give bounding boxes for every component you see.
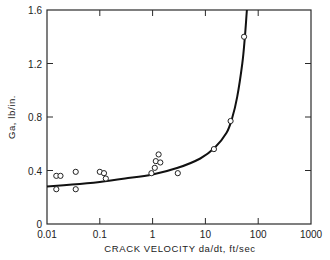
data-point-marker — [158, 160, 163, 165]
data-point-marker — [211, 147, 216, 152]
y-tick-label: 0 — [36, 219, 42, 230]
data-point-marker — [228, 118, 233, 123]
plot-frame — [47, 10, 311, 224]
y-tick-label: 0.8 — [28, 112, 42, 123]
chart: 0.010.11101001000 00.40.81.21.6 CRACK VE… — [0, 0, 330, 260]
y-axis-tick-labels: 00.40.81.21.6 — [28, 5, 42, 230]
data-point-marker — [156, 152, 161, 157]
data-point-marker — [73, 187, 78, 192]
data-point-marker — [101, 171, 106, 176]
data-markers — [54, 34, 247, 192]
data-point-marker — [175, 171, 180, 176]
y-axis-ticks — [47, 64, 311, 171]
y-tick-label: 1.6 — [28, 5, 42, 16]
fit-curve — [47, 10, 247, 187]
data-point-marker — [152, 165, 157, 170]
x-tick-label: 1 — [150, 229, 156, 240]
x-tick-label: 10 — [200, 229, 212, 240]
data-point-marker — [149, 171, 154, 176]
data-point-marker — [58, 173, 63, 178]
x-tick-label: 100 — [250, 229, 267, 240]
y-axis-title: Ga, lb/in. — [6, 95, 17, 139]
data-point-marker — [103, 176, 108, 181]
x-tick-label: 0.1 — [93, 229, 107, 240]
data-point-marker — [54, 187, 59, 192]
x-axis-title: CRACK VELOCITY da/dt, ft/sec — [104, 243, 255, 254]
x-axis-ticks — [100, 10, 258, 224]
y-tick-label: 0.4 — [28, 166, 42, 177]
x-tick-label: 0.01 — [37, 229, 57, 240]
y-tick-label: 1.2 — [28, 59, 42, 70]
data-point-marker — [73, 169, 78, 174]
data-point-marker — [241, 34, 246, 39]
x-tick-label: 1000 — [300, 229, 323, 240]
x-axis-tick-labels: 0.010.11101001000 — [37, 229, 322, 240]
